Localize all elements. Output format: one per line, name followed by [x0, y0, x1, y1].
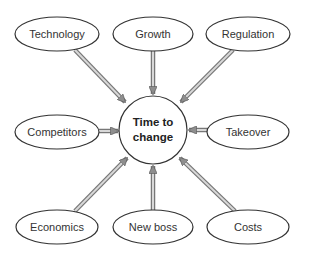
node-growth: Growth: [135, 28, 170, 40]
arrow-costs: [180, 158, 235, 211]
node-costs: Costs: [234, 221, 262, 233]
center-label-line1: Time to: [133, 115, 174, 130]
node-competitors: Competitors: [27, 126, 86, 138]
node-takeover: Takeover: [226, 126, 271, 138]
center-node-label: Time to change: [133, 115, 174, 145]
node-technology: Technology: [29, 28, 85, 40]
arrow-technology: [75, 50, 125, 102]
arrow-economics: [75, 158, 127, 211]
node-new-boss: New boss: [129, 221, 177, 233]
center-label-line2: change: [133, 130, 174, 145]
arrow-regulation: [181, 50, 233, 102]
node-regulation: Regulation: [222, 28, 275, 40]
node-economics: Economics: [30, 221, 84, 233]
